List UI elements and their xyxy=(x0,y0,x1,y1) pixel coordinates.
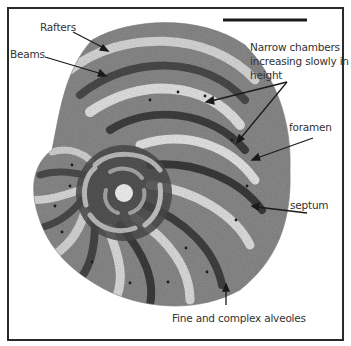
label-foramen: foramen xyxy=(289,120,332,134)
protoconch xyxy=(115,184,133,202)
label-rafters: Rafters xyxy=(40,20,76,34)
label-septum: septum xyxy=(290,198,328,212)
label-alveoles: Fine and complex alveoles xyxy=(172,311,306,325)
label-beams: Beams xyxy=(10,47,45,61)
label-narrow-chambers: Narrow chambers increasing slowly in hei… xyxy=(250,40,350,82)
